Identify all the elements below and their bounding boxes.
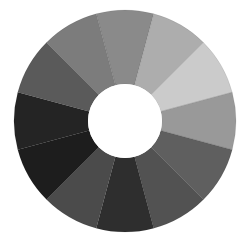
grayscale-wheel [0, 0, 248, 233]
image-canvas [0, 0, 248, 233]
center-hole [88, 84, 162, 158]
